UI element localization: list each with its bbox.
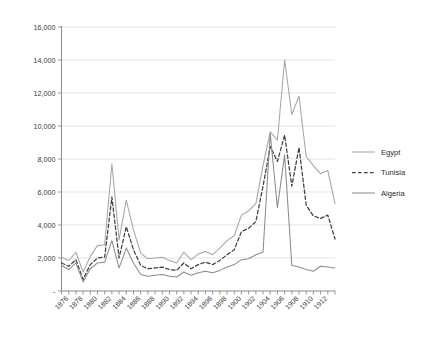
chart-container: -2,0004,0006,0008,00010,00012,00014,0001… [0, 0, 424, 339]
x-axis-labels: 1876187818801882188418861888189018921894… [53, 295, 328, 311]
line-chart: -2,0004,0006,0008,00010,00012,00014,0001… [0, 0, 424, 339]
x-tick-label: 1912 [313, 295, 329, 311]
x-tick-label: 1882 [97, 295, 113, 311]
x-tick-label: 1906 [269, 295, 285, 311]
y-tick-label: 2,000 [38, 254, 56, 263]
x-tick-label: 1898 [212, 295, 228, 311]
y-axis-ticks [58, 27, 62, 291]
x-tick-label: 1904 [255, 295, 271, 311]
x-tick-label: 1886 [125, 295, 141, 311]
x-tick-label: 1894 [183, 295, 199, 311]
x-tick-label: 1880 [82, 295, 98, 311]
x-tick-label: 1896 [197, 295, 213, 311]
x-tick-label: 1890 [154, 295, 170, 311]
x-tick-label: 1910 [298, 295, 314, 311]
y-tick-label: 8,000 [38, 155, 56, 164]
legend-label-tunisia: Tunisia [381, 168, 406, 177]
series-line-algeria [62, 133, 336, 282]
y-tick-label: 12,000 [34, 89, 56, 98]
legend-label-algeria: Algeria [381, 189, 405, 198]
y-tick-label: 6,000 [38, 188, 56, 197]
gridlines [62, 27, 336, 258]
x-axis-ticks [62, 291, 336, 295]
x-tick-label: 1878 [68, 295, 84, 311]
y-tick-label: 16,000 [34, 23, 56, 32]
y-tick-label: 4,000 [38, 221, 56, 230]
chart-legend: EgyptTunisiaAlgeria [352, 148, 406, 198]
y-tick-label: 14,000 [34, 56, 56, 65]
x-tick-label: 1908 [284, 295, 300, 311]
x-tick-label: 1892 [169, 295, 185, 311]
x-tick-label: 1888 [140, 295, 156, 311]
series-line-egypt [62, 60, 336, 272]
y-tick-label: - [53, 287, 56, 296]
x-tick-label: 1876 [53, 295, 69, 311]
x-tick-label: 1884 [111, 295, 127, 311]
x-tick-label: 1900 [226, 295, 242, 311]
x-tick-label: 1902 [241, 295, 257, 311]
y-axis-labels: -2,0004,0006,0008,00010,00012,00014,0001… [34, 23, 57, 296]
y-tick-label: 10,000 [34, 122, 56, 131]
legend-label-egypt: Egypt [381, 148, 401, 157]
